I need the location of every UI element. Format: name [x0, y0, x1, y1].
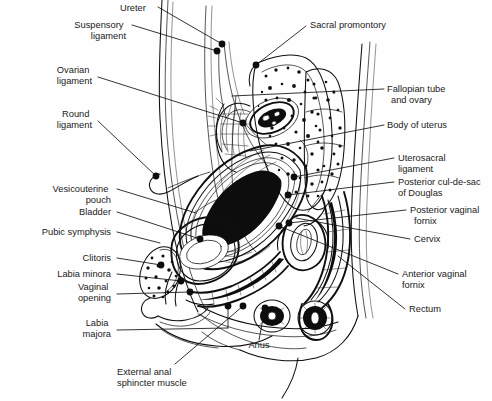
anchor-suspensory-ligament: [214, 48, 221, 55]
label-ovarian-ligament: Ovarian ligament: [57, 65, 93, 86]
leader-uterosacral-ligament: [294, 158, 394, 177]
rectum-group: [304, 192, 350, 308]
label-round-ligament: Round ligament: [57, 109, 93, 130]
label-external-anal-sphincter-muscle: External anal sphincter muscle: [117, 367, 187, 388]
label-ureter: Ureter: [120, 3, 146, 13]
clitoris-outline: [141, 298, 158, 318]
anatomy-illustration: Ureter Sacral promontory Suspensory liga…: [0, 0, 492, 401]
anatomy-figure: Ureter Sacral promontory Suspensory liga…: [0, 0, 492, 401]
label-suspensory-ligament: Suspensory ligament: [74, 20, 126, 41]
anchor-ureter: [219, 41, 226, 48]
label-fallopian-tube-and-ovary: Fallopian tube and ovary: [387, 84, 448, 105]
label-bladder: Bladder: [79, 207, 111, 217]
label-rectum: Rectum: [409, 304, 441, 314]
label-pubic-symphysis: Pubic symphysis: [42, 227, 112, 237]
label-uterosacral-ligament: Uterosacral ligament: [398, 153, 448, 174]
label-sacral-promontory: Sacral promontory: [310, 20, 386, 30]
leader-body-of-uterus: [250, 125, 384, 151]
anchor-clitoris: [158, 262, 165, 269]
labia-minora-outline: [158, 308, 208, 321]
leader-fallopian-tube-and-ovary: [232, 89, 384, 96]
label-cervix: Cervix: [414, 234, 441, 244]
posterior-wall-outer: [351, 44, 362, 316]
cervical-canal: [294, 228, 313, 256]
label-labia-minora: Labia minora: [57, 269, 112, 279]
leader-vesicouterine-pouch: [117, 189, 196, 213]
gluteal-fold: [202, 332, 240, 350]
anchor-uterosacral-ligament: [291, 174, 298, 181]
coccyx-stipple: [313, 81, 342, 198]
leader-labia-minora: [117, 274, 181, 281]
coccyx-segment-line-3: [305, 175, 339, 178]
leader-pubic-symphysis: [117, 232, 160, 243]
label-labia-majora: Labia majora: [83, 318, 112, 339]
leader-clitoris: [117, 258, 161, 265]
label-anus: Anus: [248, 340, 270, 350]
anchor-posterior-cul-de-sac: [285, 192, 292, 199]
leader-suspensory-ligament: [132, 25, 217, 51]
anchor-labia-minora: [178, 278, 185, 285]
leader-ovarian-ligament: [98, 77, 243, 123]
anchor-labia-majora: [225, 303, 232, 310]
label-vaginal-opening: Vaginal opening: [78, 282, 111, 303]
anchor-vaginal-opening: [187, 289, 194, 296]
anal-canal-lumen: [311, 312, 319, 324]
anal-sphincter-group: [298, 301, 333, 340]
thigh-contour: [282, 358, 298, 398]
leader-ureter: [158, 7, 222, 44]
anchor-ovarian-ligament: [240, 120, 247, 127]
anchor-round-ligament: [153, 173, 160, 180]
perineal-body-center: [268, 312, 276, 320]
label-posterior-vaginal-fornix: Posterior vaginal fornix: [410, 205, 482, 226]
anchor-external-anal-sphincter: [240, 303, 247, 310]
leader-labia-majora: [117, 328, 228, 330]
abdominal-wall-fascia: [171, 2, 186, 232]
rectus-sheath-line-2: [211, 6, 230, 218]
leader-vaginal-opening: [117, 292, 190, 294]
label-vesicouterine-pouch: Vesicouterine pouch: [53, 184, 111, 205]
pubic-symphysis-group: [140, 247, 181, 299]
label-posterior-cul-de-sac-of-douglas: Posterior cul-de-sac of Douglas: [398, 177, 483, 198]
anchor-bladder: [197, 236, 204, 243]
posterior-wall-skin: [366, 44, 376, 318]
pubic-bone-stipple: [145, 254, 178, 298]
suspensory-ligament-strand: [219, 50, 226, 118]
vaginal-opening-outline: [186, 300, 214, 305]
leader-rectum: [338, 256, 405, 309]
anchor-anus: [262, 305, 269, 312]
anchor-posterior-vaginal-fornix: [286, 220, 293, 227]
label-clitoris: Clitoris: [83, 253, 112, 263]
leader-sacral-promontory: [256, 26, 306, 65]
leader-posterior-cul-de-sac: [288, 182, 394, 195]
anchor-sacral-promontory: [253, 62, 260, 69]
leader-round-ligament: [98, 121, 156, 176]
anchor-anterior-vaginal-fornix: [276, 223, 283, 230]
rectum-mucosa-anterior: [311, 200, 333, 300]
label-body-of-uterus: Body of uterus: [387, 120, 447, 130]
leader-cervix: [296, 218, 410, 239]
label-anterior-vaginal-fornix: Anterior vaginal fornix: [402, 269, 469, 290]
